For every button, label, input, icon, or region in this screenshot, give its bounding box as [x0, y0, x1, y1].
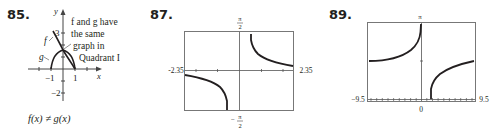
caption-f-not-equal-g: f(x) ≠ g(x)	[28, 113, 71, 125]
y-tick-3: 3	[55, 28, 60, 38]
svg-text:2: 2	[238, 23, 241, 30]
x-max-label: 9.5	[479, 95, 489, 104]
svg-text:π: π	[238, 15, 242, 22]
x-min-label: -2.35	[168, 66, 184, 75]
x-tick-1: 1	[73, 73, 78, 83]
f-leader-line	[49, 37, 53, 41]
graph-89: π −9.5 9.5 0	[351, 13, 489, 114]
svg-text:−: −	[231, 116, 235, 124]
y-max-label-pi-over-2: π 2	[237, 15, 243, 30]
y-axis-label: y	[53, 6, 58, 16]
svg-text:2: 2	[238, 122, 241, 129]
x-axis-label: x	[96, 71, 101, 81]
annotation-line-3: graph in	[73, 41, 105, 51]
y-max-label-pi: π	[418, 13, 422, 21]
y-tick-neg2: −2	[51, 88, 61, 98]
graph-87: -2.35 2.35 π 2 − π 2	[168, 15, 313, 129]
svg-text:π: π	[238, 113, 242, 120]
y-axis-arrow-icon	[61, 9, 66, 15]
g-leader-line	[44, 57, 49, 60]
annotation-line-1: f and g have	[71, 17, 118, 27]
annotation-line-2: the same	[71, 29, 105, 39]
viewing-window-frame	[185, 32, 294, 111]
y-min-label-neg-pi-over-2: − π 2	[231, 113, 243, 129]
curve-label-g: g	[39, 52, 44, 62]
figures-canvas: y x 3 −2 −1 1 f g f and g have the same …	[0, 0, 498, 132]
x-max-label: 2.35	[299, 66, 312, 75]
x-min-label: −9.5	[351, 95, 365, 104]
annotation-leader-line	[64, 44, 71, 49]
graph-85: y x 3 −2 −1 1 f g f and g have the same …	[28, 6, 120, 125]
x-tick-neg1: −1	[45, 73, 55, 83]
origin-label-0: 0	[419, 105, 423, 114]
curve-label-f: f	[44, 36, 48, 46]
annotation-line-4: Quadrant I	[79, 53, 120, 63]
